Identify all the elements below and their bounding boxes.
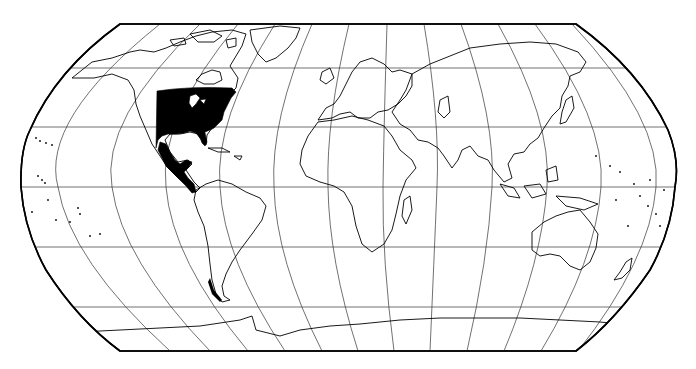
- map-canvas: [0, 0, 696, 369]
- world-range-map: [0, 0, 696, 369]
